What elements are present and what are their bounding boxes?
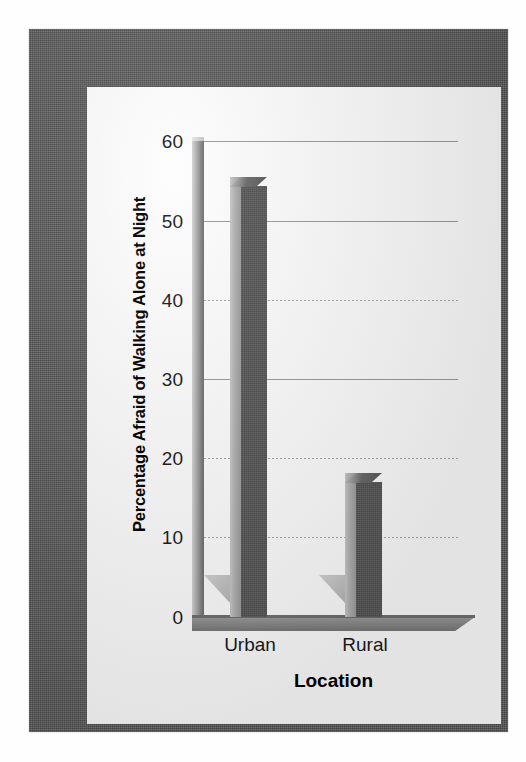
ytick-label-40: 40 — [143, 291, 183, 310]
xtick-label-rural: Rural — [315, 635, 415, 654]
chart-floor — [192, 617, 475, 631]
ytick-label-10: 10 — [143, 528, 183, 547]
bar-chart: 60 50 40 30 20 10 0 — [87, 87, 501, 724]
y-axis-title: Percentage Afraid of Walking Alone at Ni… — [130, 155, 149, 575]
gridline-60 — [204, 141, 458, 142]
bar-rural[interactable] — [345, 473, 382, 617]
ytick-label-20: 20 — [143, 449, 183, 468]
x-axis-title: Location — [192, 670, 475, 692]
ytick-label-50: 50 — [143, 212, 183, 231]
bar-urban-side — [230, 177, 241, 617]
ytick-label-60: 60 — [143, 132, 183, 151]
y-axis-wall — [192, 141, 204, 621]
bar-urban[interactable] — [230, 177, 267, 617]
xtick-label-urban: Urban — [200, 635, 300, 654]
ytick-label-0: 0 — [143, 608, 183, 627]
bar-rural-front — [356, 482, 382, 617]
chart-card: 60 50 40 30 20 10 0 — [87, 87, 501, 724]
ytick-label-30: 30 — [143, 370, 183, 389]
figure-caption — [22, 744, 442, 758]
figure-frame: 60 50 40 30 20 10 0 — [29, 29, 508, 732]
bar-urban-front — [241, 186, 267, 617]
scanned-page: 60 50 40 30 20 10 0 — [0, 0, 526, 762]
bar-rural-side — [345, 473, 356, 617]
